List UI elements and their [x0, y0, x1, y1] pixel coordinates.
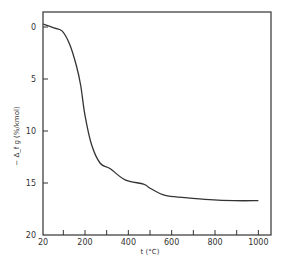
x-tick-label: 800	[207, 238, 222, 247]
y-tick-label: 20	[26, 231, 36, 240]
x-tick-label: 20	[38, 238, 48, 247]
y-tick-label: 10	[26, 127, 36, 136]
chart: 202004006008001000 05101520 t (°C) − Δ_f…	[0, 0, 283, 270]
plot-frame	[43, 12, 271, 235]
plot-area	[43, 12, 271, 235]
x-tick-label: 400	[121, 238, 136, 247]
y-tick-label: 0	[31, 23, 36, 32]
x-axis-label: t (°C)	[141, 248, 160, 256]
x-axis: 202004006008001000	[38, 230, 269, 247]
y-tick-label: 15	[26, 179, 36, 188]
x-tick-label: 600	[164, 238, 179, 247]
y-tick-label: 5	[31, 75, 36, 84]
x-tick-label: 200	[77, 238, 92, 247]
y-axis-label: − Δ_f g (%/kmol)	[13, 106, 21, 166]
data-line	[43, 24, 258, 201]
y-axis: 05101520	[26, 23, 48, 240]
x-tick-label: 1000	[248, 238, 268, 247]
